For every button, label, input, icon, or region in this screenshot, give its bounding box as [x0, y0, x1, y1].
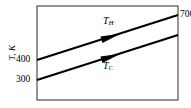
- temperature-profile-figure: 400 300 700 T, K TH TC: [0, 0, 191, 108]
- hot-stream-subscript: H: [109, 19, 114, 27]
- cold-stream-subscript: C: [109, 64, 114, 72]
- hot-stream-label: TH: [103, 16, 114, 27]
- cold-stream-label: TC: [103, 61, 113, 72]
- y-tick-label-700: 700: [180, 10, 191, 20]
- y-tick-label-400: 400: [16, 55, 30, 65]
- y-tick-label-300: 300: [16, 75, 30, 85]
- temperature-axis-label: T, K: [8, 36, 17, 70]
